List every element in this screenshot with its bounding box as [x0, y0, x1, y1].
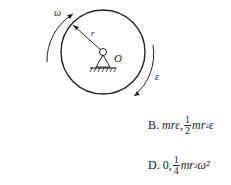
epsilon-label: ε: [155, 71, 159, 82]
fraction: 12: [184, 115, 191, 136]
support-triangle-icon: [96, 55, 110, 67]
omega-label: ω: [54, 7, 61, 18]
option-d[interactable]: D. 0, 14 mr2ω²: [148, 155, 210, 176]
radius-line: [73, 25, 103, 52]
disk-diagram: ω r O ε: [0, 0, 231, 110]
epsilon-arc: [134, 45, 154, 96]
omega-arc: [47, 14, 73, 62]
radius-label: r: [91, 28, 95, 38]
center-label: O: [114, 52, 122, 64]
option-b[interactable]: B. mrε, 12 mr2ε: [148, 115, 214, 136]
fraction: 14: [173, 155, 180, 176]
omega-arrowhead-icon: [67, 14, 73, 19]
